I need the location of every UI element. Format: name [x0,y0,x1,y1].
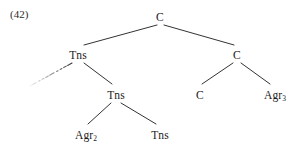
tree-node-agr2-leaf: Agr2 [75,130,97,142]
tree-branch [202,63,233,84]
tree-node-c-right: C [233,50,241,62]
tree-branch [241,63,270,84]
tree-branch [88,103,111,124]
tree-node-label: C [156,11,164,23]
tree-node-agr3-leaf: Agr3 [264,90,286,102]
tree-node-c-leaf: C [196,90,204,102]
tree-branch [84,63,112,84]
tree-node-tns-left: Tns [69,50,87,62]
tree-node-label: Tns [151,129,169,141]
syntax-tree-figure: (42) CTnsCTnsCAgr3Agr2Tns [0,0,300,147]
tree-node-root-c: C [156,12,164,24]
tree-branch [121,103,156,124]
tree-branch [84,25,157,45]
tree-branches [0,0,300,147]
tree-node-label: C [233,49,241,61]
tree-node-subscript: 3 [282,94,286,103]
tree-node-label: Agr [75,129,93,141]
tree-node-label: C [196,89,204,101]
tree-node-label: Agr [264,89,282,101]
tree-branch [30,63,72,86]
tree-node-label: Tns [69,49,87,61]
tree-node-subscript: 2 [93,134,97,143]
tree-node-tns-mid: Tns [107,90,125,102]
tree-node-tns-leaf: Tns [151,130,169,142]
tree-node-label: Tns [107,89,125,101]
tree-branch [164,25,234,45]
